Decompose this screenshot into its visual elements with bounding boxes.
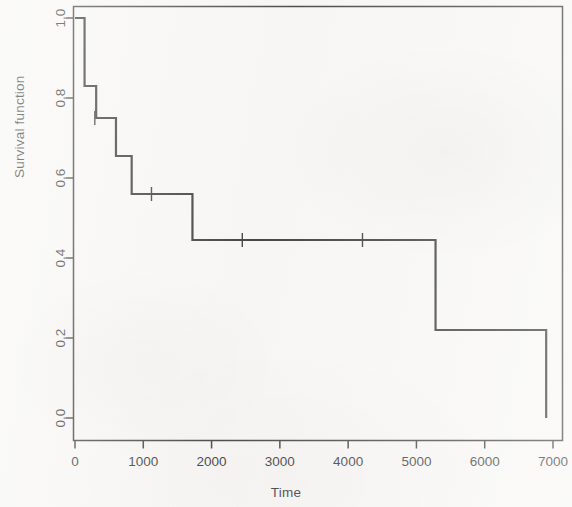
survival-function-chart: 01000200030004000500060007000 0.00.20.40… bbox=[0, 0, 572, 507]
y-tick-label: 1.0 bbox=[53, 9, 68, 28]
survival-step-curve bbox=[75, 18, 546, 418]
x-axis-label: Time bbox=[0, 485, 572, 500]
y-tick-label: 0.8 bbox=[53, 89, 68, 108]
x-tick-label: 7000 bbox=[538, 454, 568, 469]
survival-curve-path bbox=[75, 18, 546, 418]
x-tick-label: 1000 bbox=[128, 454, 158, 469]
y-axis-label: Survival function bbox=[12, 76, 27, 178]
plot-frame bbox=[74, 7, 563, 441]
y-tick-label: 0.4 bbox=[53, 248, 68, 267]
x-axis-tick-labels: 01000200030004000500060007000 bbox=[71, 454, 568, 469]
x-tick-label: 2000 bbox=[197, 454, 227, 469]
y-tick-label: 0.2 bbox=[53, 329, 68, 348]
x-tick-label: 3000 bbox=[265, 454, 295, 469]
x-tick-label: 5000 bbox=[401, 454, 431, 469]
x-tick-label: 0 bbox=[71, 454, 79, 469]
censoring-marks bbox=[95, 111, 363, 247]
y-axis-ticks bbox=[66, 18, 74, 418]
y-tick-label: 0.0 bbox=[53, 409, 68, 428]
y-axis-tick-labels: 0.00.20.40.60.81.0 bbox=[53, 9, 68, 428]
y-tick-label: 0.6 bbox=[53, 169, 68, 188]
x-tick-label: 4000 bbox=[333, 454, 363, 469]
x-axis-ticks bbox=[75, 441, 553, 449]
survival-plot-page: 01000200030004000500060007000 0.00.20.40… bbox=[0, 0, 572, 507]
x-tick-label: 6000 bbox=[470, 454, 500, 469]
